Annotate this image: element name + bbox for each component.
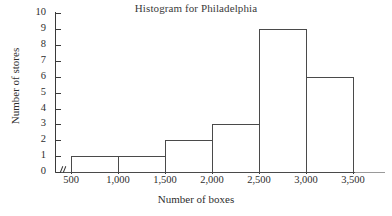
y-tick-9 [56,29,61,30]
axis-break-icon [60,166,69,174]
y-tick-label-9: 9 [18,23,46,33]
x-tick-label-3000: 3,000 [284,174,328,186]
y-tick-5 [56,93,61,94]
bar-2500-3000 [259,29,307,173]
x-axis-label: Number of boxes [0,193,392,205]
plot-area: 0 1 2 3 4 5 6 7 8 9 10 500 1,000 1, [0,0,392,216]
y-axis-label: Number of stores [9,11,21,161]
y-tick-7 [56,61,61,62]
histogram-chart: Histogram for Philadelphia 0 1 2 3 4 5 6… [0,0,392,216]
x-tick-label-2500: 2,500 [237,174,281,186]
y-tick-label-4: 4 [18,103,46,113]
y-tick-label-5: 5 [18,87,46,97]
y-tick-6 [56,77,61,78]
y-tick-label-8: 8 [18,39,46,49]
y-tick-label-10: 10 [18,7,46,17]
bar-1000-1500 [118,156,166,173]
y-tick-2 [56,140,61,141]
y-tick-4 [56,109,61,110]
bar-2000-2500 [212,124,260,173]
y-tick-label-2: 2 [18,134,46,144]
x-tick-label-500: 500 [49,174,93,186]
bar-1500-2000 [165,140,213,173]
y-tick-label-6: 6 [18,71,46,81]
bar-3000-3500 [306,77,354,173]
y-tick-label-3: 3 [18,118,46,128]
x-tick-label-1500: 1,500 [143,174,187,186]
x-tick-label-3500: 3,500 [331,174,375,186]
y-tick-10 [56,13,61,14]
y-tick-label-0: 0 [18,166,46,176]
y-tick-label-7: 7 [18,55,46,65]
x-tick-label-2000: 2,000 [190,174,234,186]
x-tick-label-1000: 1,000 [96,174,140,186]
y-tick-1 [56,156,61,157]
bar-500-1000 [71,156,119,173]
y-tick-8 [56,45,61,46]
y-tick-3 [56,124,61,125]
y-tick-label-1: 1 [18,150,46,160]
